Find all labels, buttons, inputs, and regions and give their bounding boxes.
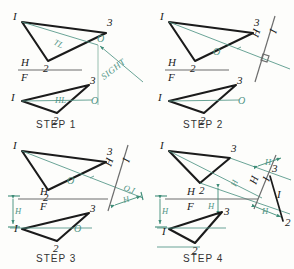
step3-top-vertex-1-label: I: [12, 139, 18, 151]
step2-front-point-o-label: O: [238, 95, 245, 106]
step4-aux-dim-mid-label: H: [228, 178, 240, 189]
step2-ref-upper-label: H: [167, 56, 177, 68]
step4-top-vertex-3-label: 3: [230, 142, 237, 154]
step2-new-ref-lower-label: I: [266, 26, 279, 35]
step2-top-vertex-2-label: 2: [190, 62, 196, 74]
step3-aux-dim-tick: [141, 192, 143, 200]
step1-caption: STEP 1: [36, 119, 76, 130]
step4-group: H I H H H H F H H I 2 3 I: [155, 139, 291, 264]
step1-true-length-label: TL: [52, 37, 65, 50]
step1-front-point-o-label: O: [91, 95, 98, 106]
step1-horizontal-line-label: HL: [54, 95, 66, 105]
step2-group: H I H F I 2 3 O I 2 3 O STEP 2: [157, 10, 290, 130]
step2-top-vertex-3-label: 3: [253, 16, 260, 28]
step2-front-horizontal-line: [169, 100, 239, 101]
step3-top-view-triangle: [22, 151, 106, 190]
step2-top-vertex-1-label: I: [159, 10, 165, 22]
step4-edge-vertex-3-label: 3: [271, 162, 278, 174]
step3-aux-dimension-label: H: [121, 193, 132, 205]
step1-top-vertex-2-label: 2: [43, 62, 49, 74]
step4-edge-vertex-2-label: 2: [285, 216, 291, 228]
step4-ref-lower-label: F: [186, 200, 194, 212]
step1-front-vertex-1-label: I: [10, 91, 16, 103]
step2-front-vertex-1-label: I: [157, 91, 163, 103]
step3-caption: STEP 3: [36, 253, 76, 264]
step3-group: H I O,I H H F H I 2 3 O I 2 3 O STEP 3: [8, 139, 143, 264]
step3-top-point-o-label: O: [67, 175, 74, 186]
step2-caption: STEP 2: [183, 119, 223, 130]
step1-group: SIGHT H F I 2 3 O TL I 2 3 O HL STEP 1: [10, 10, 143, 130]
step2-top-point-o-label: O: [213, 46, 220, 57]
step3-point-o-marker: [90, 176, 94, 178]
step3-front-point-o-label: O: [74, 223, 81, 234]
step2-perpendicular-mark: [261, 54, 269, 62]
step4-caption: STEP 4: [183, 253, 223, 264]
step4-projector-1: [169, 151, 262, 198]
step1-ref-upper-label: H: [20, 56, 30, 68]
step4-aux-dim-2-line: [256, 207, 281, 217]
step4-front-view-triangle: [169, 212, 222, 243]
step4-edge-vertex-1-label: I: [276, 188, 282, 200]
step3-new-ref-lower-label: I: [119, 155, 132, 164]
step3-front-vertex-3-label: 3: [89, 202, 96, 214]
step1-top-vertex-1-label: I: [12, 10, 18, 22]
step4-front-dim-1-label: H: [161, 206, 169, 216]
step4-ref-upper-label: H: [186, 185, 196, 197]
step1-top-vertex-3-label: 3: [106, 16, 113, 28]
step4-aux-dim-3-label: H: [264, 157, 272, 167]
step1-ref-lower-label: F: [20, 71, 28, 83]
step2-point-o-marker: [237, 47, 241, 49]
step4-aux-dim-2-label: H: [261, 206, 269, 216]
step4-top-vertex-1-label: I: [159, 139, 165, 151]
step4-front-vertex-3-label: 3: [223, 205, 230, 217]
step3-top-vertex-2-label: 2: [43, 191, 49, 203]
step1-top-point-o-label: O: [97, 33, 104, 44]
step2-new-ref-upper-label: H: [248, 26, 263, 39]
descriptive-geometry-figure: SIGHT H F I 2 3 O TL I 2 3 O HL STEP 1: [0, 0, 294, 269]
step2-ref-lower-label: F: [167, 71, 175, 83]
step2-front-view-triangle: [169, 85, 236, 113]
step2-front-vertex-3-label: 3: [236, 74, 243, 86]
step1-front-vertex-3-label: 3: [89, 74, 96, 86]
step4-front-dim-2-label: H: [207, 201, 215, 211]
step2-top-view-triangle: [169, 22, 253, 61]
step3-front-dimension-label: H: [14, 206, 22, 216]
step3-new-ref-upper-label: H: [101, 155, 116, 168]
step3-top-vertex-3-label: 3: [106, 145, 113, 157]
step4-top-vertex-2-label: 2: [199, 184, 205, 196]
step4-new-ref-upper-label: H: [246, 173, 261, 187]
step1-sight-label: SIGHT: [99, 56, 128, 81]
